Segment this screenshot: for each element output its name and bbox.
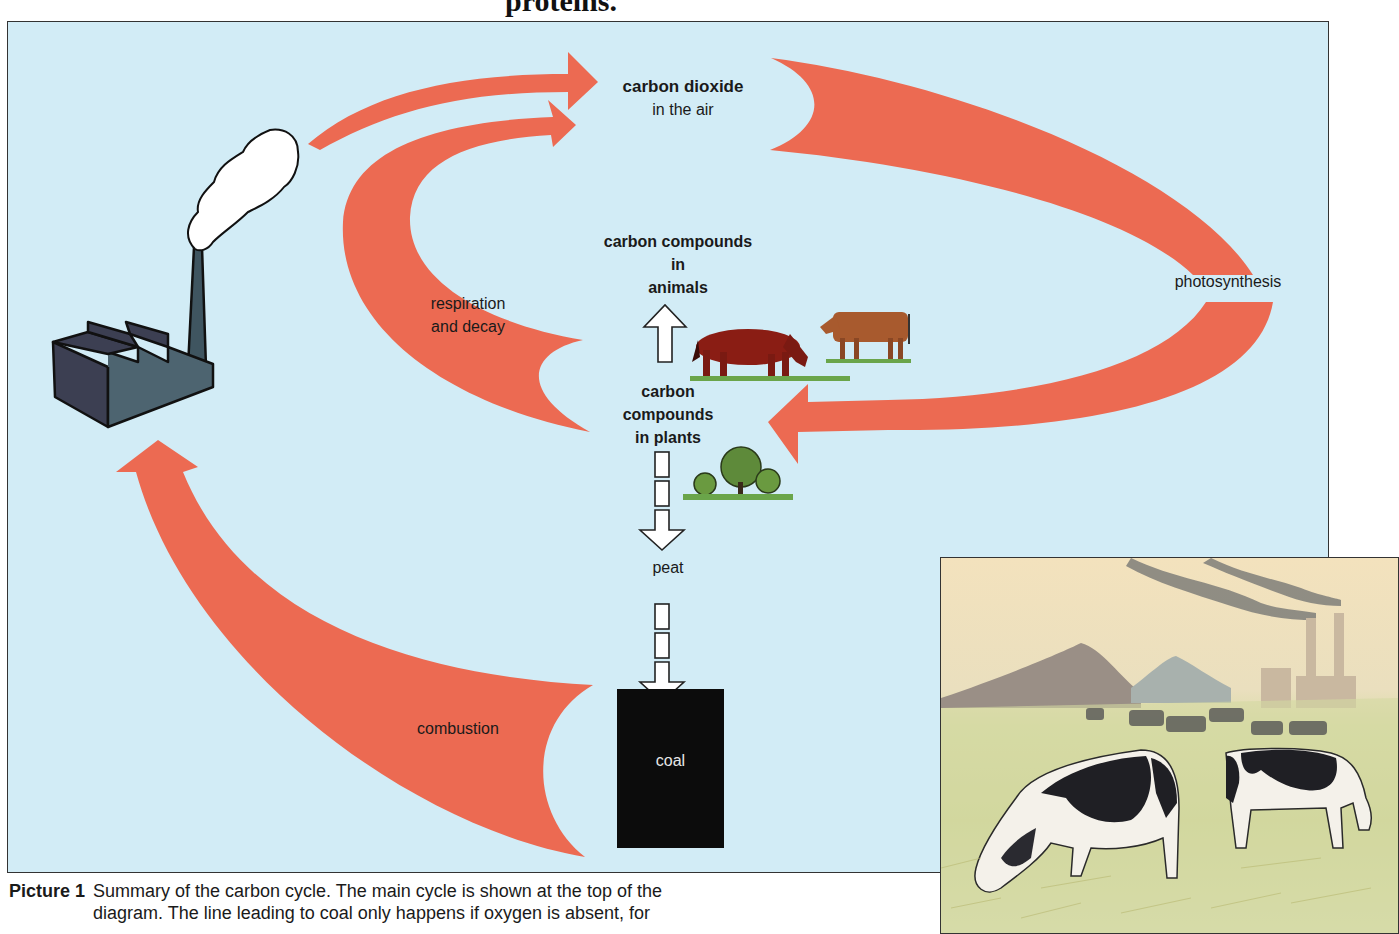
up-arrow-plants-to-animals [644, 305, 686, 362]
figure-caption: Picture 1Summary of the carbon cycle. Th… [9, 880, 909, 924]
smoke-icon [188, 130, 298, 251]
combustion-arrow [116, 440, 593, 857]
respiration-label-1: respiration [408, 295, 528, 313]
photosynthesis-label: photosynthesis [1158, 273, 1298, 291]
photosynthesis-arrow-top [770, 58, 1253, 275]
respiration-label-2: and decay [408, 318, 528, 336]
plants-label-3: in plants [568, 429, 768, 447]
co2-label: carbon dioxide [593, 77, 773, 97]
cow-icon [820, 312, 911, 363]
caption-line-2: diagram. The line leading to coal only h… [9, 902, 909, 924]
dash-1 [655, 452, 669, 477]
grazing-cows-illustration [940, 557, 1399, 934]
animals-label-2: in [568, 256, 788, 274]
dash-2 [655, 481, 669, 506]
animals-label-1: carbon compounds [568, 233, 788, 251]
respiration-arrow [343, 100, 590, 432]
caption-line-1: Summary of the carbon cycle. The main cy… [93, 881, 662, 901]
slag-heap-icon [941, 643, 1141, 708]
down-arrow-to-peat [640, 510, 684, 550]
distant-factory-icon [1261, 613, 1356, 708]
horse-icon [690, 329, 850, 381]
plants-label-2: compounds [568, 406, 768, 424]
combustion-label: combustion [403, 720, 513, 738]
plants-label-1: carbon [568, 383, 768, 401]
heading-fragment: proteins. [505, 0, 617, 18]
animals-label-3: animals [568, 279, 788, 297]
dash-4 [655, 633, 669, 658]
co2-sublabel: in the air [593, 101, 773, 119]
landscape-scene [941, 558, 1399, 934]
coal-label: coal [617, 752, 724, 770]
dash-3 [655, 604, 669, 629]
caption-label: Picture 1 [9, 880, 93, 902]
factory-icon [53, 247, 213, 427]
peat-label: peat [618, 559, 718, 577]
trees-icon [683, 447, 793, 500]
